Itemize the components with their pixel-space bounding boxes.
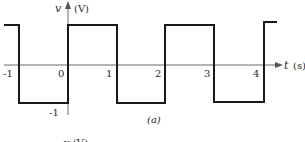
figure-caption: (a): [147, 114, 161, 125]
x-tick-label: 2: [155, 68, 161, 79]
square-wave-trace: [4, 22, 277, 103]
x-axis-unit-label: (s): [293, 60, 305, 71]
x-tick-label: -1: [3, 68, 13, 79]
x-tick-label: 0: [58, 68, 64, 79]
x-axis: [4, 62, 283, 68]
y-axis-var-label: v: [55, 2, 62, 15]
y-axis-unit-label: (V): [74, 3, 89, 14]
x-tick-label: 1: [106, 68, 112, 79]
x-axis-arrow-icon: [275, 62, 283, 68]
square-wave-figure: v (V) t (s) -1 0 1 2 3 4 -1 (a) v (V): [0, 0, 305, 142]
y-tick-label: -1: [49, 107, 59, 118]
y-axis-arrow-icon: [65, 1, 71, 9]
x-axis-var-label: t: [284, 59, 289, 72]
x-tick-label: 4: [253, 68, 259, 79]
x-tick-label: 3: [204, 68, 210, 79]
partial-next-figure-label: v (V): [63, 137, 88, 142]
